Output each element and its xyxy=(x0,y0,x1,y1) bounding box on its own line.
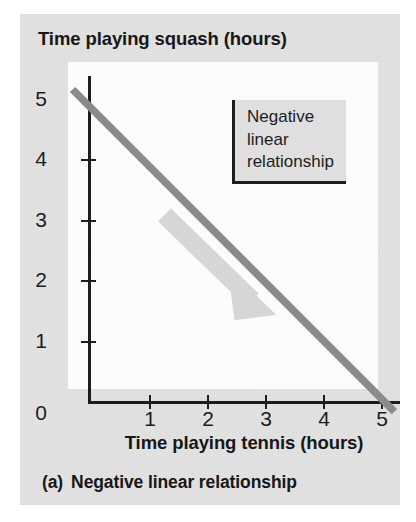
x-axis-line xyxy=(88,401,400,404)
figure-container: Time playing squash (hours) 5 4 3 2 1 0 … xyxy=(20,14,400,505)
y-tick-3 xyxy=(81,220,96,222)
caption-letter: (a) xyxy=(42,472,63,492)
y-tick-label-1: 1 xyxy=(21,330,47,351)
y-tick-1 xyxy=(81,341,96,343)
x-tick-label-1: 1 xyxy=(137,408,163,429)
y-tick-label-3: 3 xyxy=(21,209,47,230)
x-axis-title: Time playing tennis (hours) xyxy=(88,432,400,454)
y-tick-label-4: 4 xyxy=(21,148,47,169)
y-tick-label-5: 5 xyxy=(21,88,47,109)
x-tick-label-5: 5 xyxy=(369,408,395,429)
x-tick-label-3: 3 xyxy=(253,408,279,429)
figure-caption: (a)Negative linear relationship xyxy=(42,472,297,493)
y-tick-label-2: 2 xyxy=(21,269,47,290)
x-tick-label-2: 2 xyxy=(195,408,221,429)
y-tick-4 xyxy=(81,159,96,161)
legend-label: Negative linear relationship xyxy=(247,106,334,174)
y-tick-label-0: 0 xyxy=(21,402,47,423)
caption-text: Negative linear relationship xyxy=(71,472,297,492)
y-axis-line xyxy=(88,76,91,404)
y-tick-2 xyxy=(81,280,96,282)
chart-title: Time playing squash (hours) xyxy=(38,28,287,50)
legend-box: Negative linear relationship xyxy=(232,100,346,184)
x-tick-label-4: 4 xyxy=(311,408,337,429)
